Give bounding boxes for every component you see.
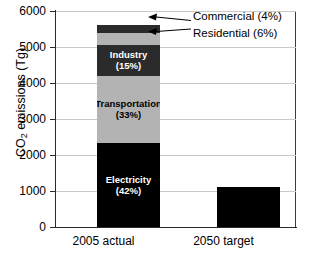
- annotation-arrow-residential: [148, 27, 192, 36]
- y-tick-label-2000: 2000: [19, 149, 46, 161]
- segment-percent-transportation: (33%): [116, 109, 141, 120]
- annotation-label-residential: Residential (6%): [193, 27, 277, 39]
- y-tick-label-5000: 5000: [19, 41, 46, 53]
- segment-label-electricity: Electricity: [106, 174, 151, 185]
- y-tick-label-4000: 4000: [19, 77, 46, 89]
- y-tick-label-3000: 3000: [19, 113, 46, 125]
- x-category-label-2050: 2050 target: [186, 234, 261, 248]
- x-axis-line: [55, 227, 297, 228]
- chart-figure: CO2 emissions (Tg) 6000 5000 4000 3000 2…: [0, 0, 319, 256]
- gridline-2000: [56, 155, 296, 156]
- segment-percent-electricity: (42%): [116, 185, 141, 196]
- annotation-arrow-commercial: [148, 13, 192, 22]
- bar-segment-industry[interactable]: Industry (15%): [97, 45, 160, 76]
- gridline-5000: [56, 47, 296, 48]
- y-tick-label-0: 0: [39, 221, 46, 233]
- bar-segment-transportation[interactable]: Transportation (33%): [97, 76, 160, 143]
- segment-percent-industry: (15%): [116, 60, 141, 71]
- bar-segment-electricity[interactable]: Electricity (42%): [97, 143, 160, 227]
- segment-label-industry: Industry: [110, 49, 147, 60]
- x-category-label-2005: 2005 actual: [66, 234, 141, 248]
- y-axis-title-subscript: 2: [19, 133, 29, 138]
- gridline-3000: [56, 119, 296, 120]
- annotation-label-commercial: Commercial (4%): [193, 10, 282, 22]
- bar-2005-actual[interactable]: Industry (15%) Transportation (33%) Elec…: [97, 25, 160, 227]
- gridline-4000: [56, 83, 296, 84]
- plot-area: Industry (15%) Transportation (33%) Elec…: [56, 11, 296, 227]
- bar-2050-target[interactable]: [217, 187, 280, 227]
- y-tick-label-6000: 6000: [19, 5, 46, 17]
- segment-label-transportation: Transportation: [97, 98, 160, 109]
- y-tick-label-1000: 1000: [19, 185, 46, 197]
